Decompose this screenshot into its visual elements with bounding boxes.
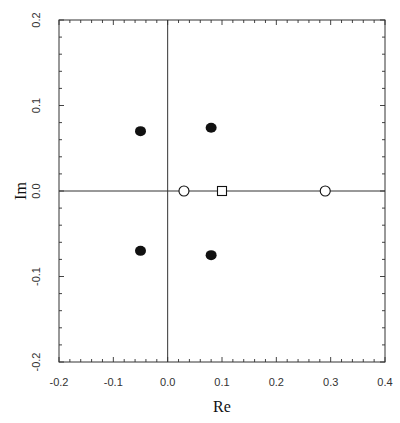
y-tick-label: 0.2	[30, 12, 42, 27]
filled-circle-marker	[206, 123, 217, 133]
x-tick-label: -0.1	[104, 376, 123, 388]
open-circle-marker	[320, 186, 330, 196]
y-tick-label: -0.2	[30, 353, 42, 372]
filled-circle-marker	[135, 246, 146, 256]
x-tick-label: 0.4	[377, 376, 392, 388]
pole-zero-chart: -0.2-0.10.00.10.20.30.4 -0.2-0.10.00.10.…	[0, 0, 400, 423]
x-tick-label: 0.1	[214, 376, 229, 388]
x-tick-label: 0.3	[323, 376, 338, 388]
y-axis-title: Im	[12, 182, 29, 200]
y-tick-label: 0.0	[30, 183, 42, 198]
filled-circle-marker	[206, 250, 217, 260]
open-square-marker	[218, 187, 227, 196]
x-tick-label: 0.2	[269, 376, 284, 388]
open-circle-marker	[179, 186, 189, 196]
filled-circle-marker	[135, 126, 146, 136]
x-axis-title: Re	[213, 398, 231, 415]
y-tick-labels: -0.2-0.10.00.10.2	[30, 12, 42, 371]
x-tick-label: 0.0	[160, 376, 175, 388]
x-tick-label: -0.2	[50, 376, 69, 388]
x-tick-labels: -0.2-0.10.00.10.20.30.4	[50, 376, 393, 388]
y-tick-label: -0.1	[30, 267, 42, 286]
y-tick-label: 0.1	[30, 98, 42, 113]
